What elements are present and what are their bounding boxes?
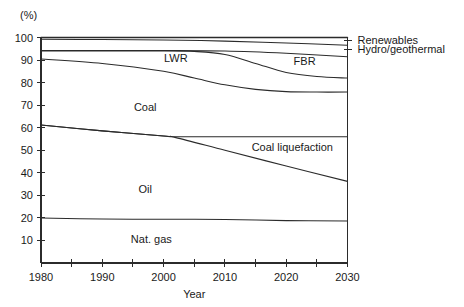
band-label-coal: Coal: [134, 101, 157, 113]
x-tick-label: 1990: [90, 271, 114, 283]
chart-canvas: 102030405060708090100 198019902000201020…: [0, 0, 464, 307]
y-tick-label: 70: [21, 99, 33, 111]
right-side-labels: RenewablesHydro/geothermal: [344, 34, 445, 55]
x-tick-labels: 198019902000201020202030: [29, 271, 360, 283]
x-tick-label: 2030: [335, 271, 359, 283]
y-tick-label: 100: [15, 32, 33, 44]
y-tick-label: 30: [21, 189, 33, 201]
band-label-nat-gas: Nat. gas: [131, 233, 172, 245]
energy-share-chart: 102030405060708090100 198019902000201020…: [0, 0, 464, 307]
y-axis-unit-label: (%): [20, 9, 37, 21]
y-tick-label: 50: [21, 144, 33, 156]
band-label-lwr: LWR: [164, 52, 188, 64]
x-tick-label: 1980: [29, 271, 53, 283]
x-tick-label: 2000: [151, 271, 175, 283]
y-tick-label: 60: [21, 122, 33, 134]
right-label-hydro-geothermal: Hydro/geothermal: [358, 43, 445, 55]
y-tick-labels: 102030405060708090100: [15, 32, 33, 247]
y-tick-label: 10: [21, 234, 33, 246]
boundary-curve-coal-liquefaction-lower: [41, 125, 348, 181]
y-tick-label: 20: [21, 212, 33, 224]
boundary-curve-coal-lower: [41, 125, 348, 137]
boundary-curve-renewables-lower: [41, 39, 348, 45]
y-tick-label: 80: [21, 77, 33, 89]
band-labels: LWRFBRCoalCoal liquefactionOilNat. gas: [131, 52, 333, 246]
x-tick-label: 2010: [213, 271, 237, 283]
band-label-oil: Oil: [138, 183, 151, 195]
y-tick-label: 90: [21, 54, 33, 66]
x-axis-title: Year: [183, 288, 206, 300]
x-tick-label: 2020: [274, 271, 298, 283]
band-label-fbr: FBR: [294, 55, 316, 67]
y-tick-label: 40: [21, 167, 33, 179]
band-label-coal-liquefaction: Coal liquefaction: [252, 141, 333, 153]
boundary-curve-oil-lower: [41, 218, 348, 221]
